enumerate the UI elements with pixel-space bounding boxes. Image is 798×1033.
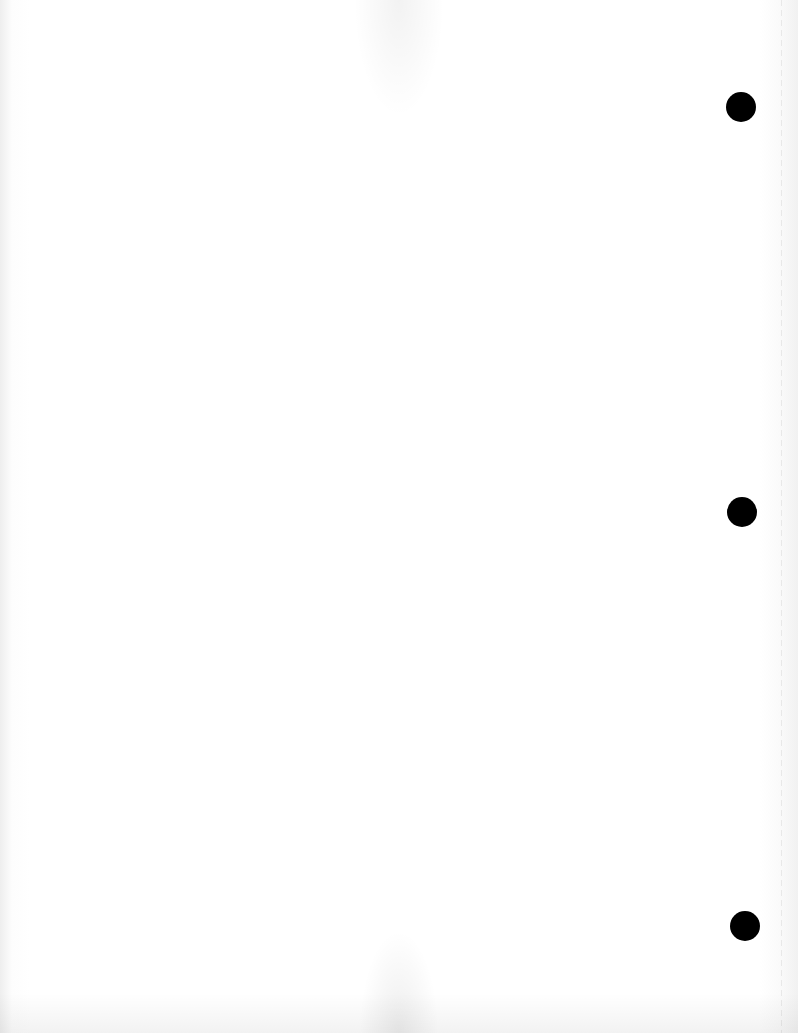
punch-hole-bottom-icon <box>730 911 760 941</box>
scan-shadow <box>0 993 798 1033</box>
blank-page <box>0 0 798 1033</box>
page-edge-line <box>781 0 782 1033</box>
punch-hole-top-icon <box>726 92 756 122</box>
punch-hole-middle-icon <box>727 497 757 527</box>
